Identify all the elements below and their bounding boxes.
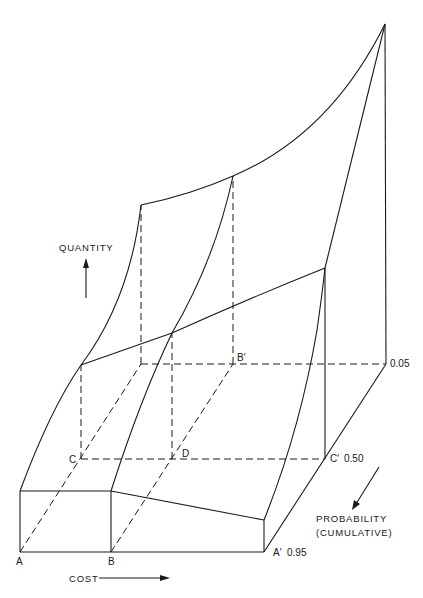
quantity-axis-label: QUANTITY — [59, 242, 113, 253]
point-label-c-prime: C′ — [330, 453, 339, 464]
longitudinal-curves — [20, 24, 385, 520]
probability-level-095: 0.95 — [287, 547, 307, 558]
point-label-c: C — [69, 454, 76, 465]
cost-arrow-icon — [99, 575, 170, 581]
cost-axis-label: COST — [69, 573, 99, 584]
point-label-d: D — [182, 448, 189, 459]
front-face-095 — [20, 491, 264, 552]
point-label-a-prime: A′ — [273, 547, 282, 558]
probability-arrow-icon — [352, 467, 379, 510]
point-label-b-prime: B′ — [237, 352, 246, 363]
probability-level-005: 0.05 — [390, 358, 410, 369]
point-label-b: B — [108, 556, 115, 567]
probability-level-050: 0.50 — [344, 453, 364, 464]
point-label-a: A — [16, 556, 23, 567]
probability-axis-label: PROBABILITY — [316, 513, 387, 524]
cost-probability-quantity-diagram: QUANTITY COST PROBABILITY (CUMULATIVE) A… — [0, 0, 423, 598]
quantity-arrow-icon — [83, 258, 89, 298]
top-section-005 — [141, 24, 386, 364]
floor-dashed-lines — [20, 176, 386, 552]
probability-axis-sublabel: (CUMULATIVE) — [316, 527, 392, 538]
